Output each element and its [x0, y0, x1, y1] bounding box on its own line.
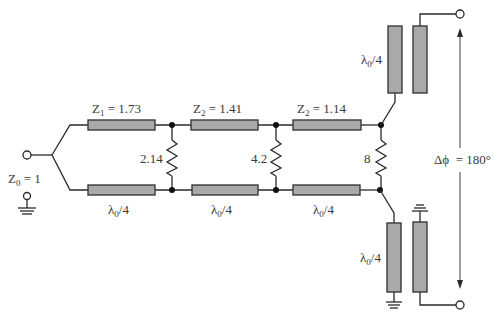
section-2-length-label: λ0/4	[211, 202, 232, 219]
output-port-1	[456, 10, 464, 18]
top-branch	[88, 120, 381, 130]
ground-icon	[412, 205, 428, 222]
section-1-impedance-label: Z1 = 1.73	[92, 101, 141, 118]
section-3-length-label: λ0/4	[313, 202, 334, 219]
resistor-3	[376, 125, 386, 190]
junction-node	[169, 187, 175, 193]
coupler-bottom-line-2	[413, 222, 427, 292]
phase-difference-label: Δϕ = 180°	[434, 152, 491, 167]
junction-node	[273, 122, 279, 128]
arrow-down-icon	[457, 280, 463, 289]
ground-icon	[386, 292, 402, 308]
transmission-line-z3-bottom	[293, 185, 360, 195]
coupler-top-line-1	[388, 26, 402, 93]
coupler-top-length-label: λ0/4	[361, 52, 382, 69]
coupler-top-line-2	[413, 26, 427, 93]
input-impedance-label: Z0 = 1	[8, 171, 41, 188]
transmission-line-z2-bottom	[192, 185, 258, 195]
transmission-line-z1-bottom	[88, 185, 155, 195]
bottom-branch	[88, 185, 380, 195]
output-port-2	[456, 301, 464, 309]
top-coupler	[381, 10, 464, 125]
ground-icon	[18, 193, 36, 215]
junction-node	[169, 122, 175, 128]
junction-node	[273, 187, 279, 193]
section-1-length-label: λ0/4	[108, 202, 129, 219]
resistor-2-value: 4.2	[251, 151, 267, 166]
transmission-line-z2-top	[191, 120, 258, 130]
input-port-terminal	[23, 151, 31, 159]
resistor-1	[167, 125, 177, 190]
section-2-impedance-label: Z2 = 1.41	[193, 101, 242, 118]
circuit-diagram: Z0 = 1 Z1 = 1.73 Z2 = 1.41 Z2 = 1.14 λ0/…	[0, 0, 494, 319]
coupler-bottom-line-1	[387, 223, 401, 292]
arrow-up-icon	[457, 28, 463, 37]
resistor-1-value: 2.14	[140, 151, 163, 166]
transmission-line-z3-top	[293, 120, 361, 130]
resistor-3-value: 8	[364, 151, 371, 166]
section-3-impedance-label: Z2 = 1.14	[297, 101, 347, 118]
resistor-2	[271, 125, 281, 190]
transmission-line-z1-top	[88, 120, 155, 130]
coupler-bottom-length-label: λ0/4	[360, 250, 381, 267]
